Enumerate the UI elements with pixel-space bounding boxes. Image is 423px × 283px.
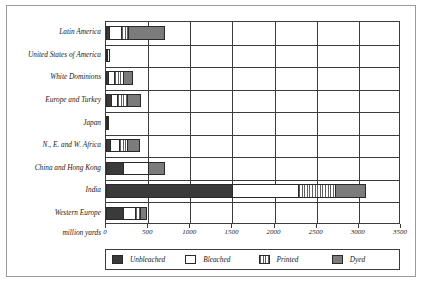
bar-segment-dyed: [128, 26, 165, 40]
bar-segment-unbleached: [106, 184, 232, 198]
x-axis-tick-label: 0: [103, 229, 107, 236]
bar-segment-unbleached: [106, 162, 123, 176]
y-axis-label: India: [1, 186, 101, 193]
y-axis-label: N., E. and W. Africa: [1, 141, 101, 148]
bar-segment-dyed: [335, 184, 366, 198]
chart-legend: UnbleachedBleachedPrintedDyed: [105, 249, 400, 270]
legend-label: Unbleached: [130, 256, 165, 263]
y-axis-label: Latin America: [1, 28, 101, 35]
legend-entry-bleached[interactable]: Bleached: [179, 255, 252, 264]
legend-swatch-printed: [259, 255, 270, 264]
stacked-bar[interactable]: [106, 71, 133, 85]
x-axis-tick-label: 1500: [224, 229, 238, 236]
bar-segment-dyed: [123, 71, 133, 85]
legend-label: Bleached: [203, 256, 230, 263]
bar-segment-bleached: [107, 49, 110, 63]
x-axis-tick-label: 500: [142, 229, 153, 236]
bar-row: [106, 157, 401, 180]
legend-entry-unbleached[interactable]: Unbleached: [106, 255, 179, 264]
y-axis-label: Japan: [1, 119, 101, 126]
x-axis-title: million yards: [0, 229, 101, 236]
y-axis-label: China and Hong Kong: [1, 164, 101, 171]
bar-row: [106, 90, 401, 113]
bar-segment-bleached: [232, 184, 299, 198]
stacked-bar[interactable]: [106, 184, 366, 198]
stacked-bar[interactable]: [106, 139, 140, 153]
x-axis-tick-label: 3000: [351, 229, 365, 236]
legend-entry-dyed[interactable]: Dyed: [326, 255, 399, 264]
stacked-bar[interactable]: [106, 207, 147, 221]
bar-segment-dyed: [148, 162, 165, 176]
stacked-bar[interactable]: [106, 49, 110, 63]
y-axis-label: Western Europe: [1, 209, 101, 216]
x-axis-tick-label: 2000: [267, 229, 281, 236]
x-axis: 0500100015002000250030003500: [105, 224, 400, 240]
bar-segment-bleached: [123, 162, 148, 176]
bar-segment-printed: [121, 26, 128, 40]
bar-row: [106, 22, 401, 45]
y-axis-label: Europe and Turkey: [1, 96, 101, 103]
bar-segment-dyed: [140, 207, 147, 221]
plot-area: [105, 21, 400, 224]
bar-segment-bleached: [110, 139, 120, 153]
bar-segment-printed: [117, 94, 127, 108]
legend-label: Printed: [277, 256, 299, 263]
bar-row: [106, 67, 401, 90]
x-axis-tick-label: 2500: [309, 229, 323, 236]
legend-swatch-dyed: [332, 255, 343, 264]
legend-swatch-unbleached: [112, 255, 123, 264]
legend-entry-printed[interactable]: Printed: [253, 255, 326, 264]
bar-segment-printed: [119, 139, 127, 153]
stacked-bar[interactable]: [106, 94, 141, 108]
bar-row: [106, 180, 401, 203]
bar-segment-bleached: [123, 207, 136, 221]
y-axis-label: United States of America: [1, 51, 101, 58]
stacked-bar[interactable]: [106, 26, 165, 40]
x-axis-tick-label: 3500: [393, 229, 407, 236]
bar-row: [106, 202, 401, 225]
bar-segment-dyed: [127, 139, 140, 153]
legend-swatch-bleached: [185, 255, 196, 264]
bar-segment-dyed: [127, 94, 140, 108]
y-axis-labels: Latin AmericaUnited States of AmericaWhi…: [0, 21, 101, 224]
bar-segment-unbleached: [106, 207, 123, 221]
legend-label: Dyed: [350, 256, 365, 263]
bar-row: [106, 112, 401, 135]
x-axis-tick-label: 1000: [182, 229, 196, 236]
bar-segment-bleached: [109, 26, 122, 40]
y-axis-label: White Dominions: [1, 73, 101, 80]
bar-segment-printed: [298, 184, 335, 198]
bar-row: [106, 135, 401, 158]
chart-figure: Latin AmericaUnited States of AmericaWhi…: [0, 0, 423, 283]
bar-segment-printed: [114, 71, 123, 85]
bar-segment-bleached: [107, 116, 109, 130]
stacked-bar[interactable]: [106, 116, 109, 130]
stacked-bar[interactable]: [106, 162, 165, 176]
bar-row: [106, 45, 401, 68]
